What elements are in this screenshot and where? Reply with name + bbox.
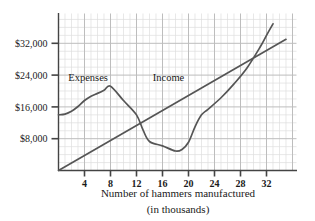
series-annotation-income: Income (153, 72, 185, 83)
y-axis-tick-label: $32,000 (15, 38, 48, 49)
x-axis-tick-label: 4 (82, 178, 87, 189)
y-axis-tick-label: $16,000 (15, 102, 48, 113)
y-axis-tick-label: $24,000 (15, 70, 48, 81)
x-axis-tick-label: 32 (262, 178, 272, 189)
x-axis-title-line-1: Number of hammers manufactured (101, 187, 256, 199)
chart-container: $8,000$16,000$24,000$32,000 481216202428… (0, 0, 315, 221)
expenses-income-line-chart: $8,000$16,000$24,000$32,000 481216202428… (0, 0, 315, 221)
x-axis-title-line-2: (in thousands) (147, 203, 210, 216)
series-annotation-expenses: Expenses (68, 72, 108, 83)
y-axis-tick-label: $8,000 (20, 133, 48, 144)
